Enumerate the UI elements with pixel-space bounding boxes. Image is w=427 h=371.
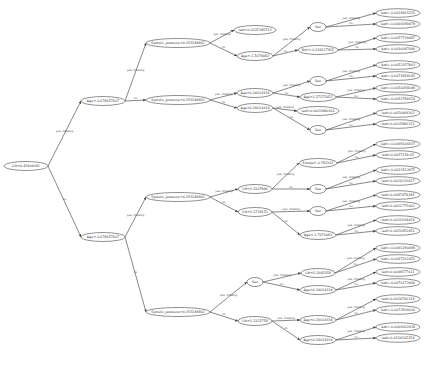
edge-label: yes, missing (220, 293, 238, 297)
node-label: Age<-0.678657667 (87, 235, 119, 239)
edge-label: yes, missing (215, 92, 233, 96)
tree-node: Age<-0.678657667 (81, 97, 125, 106)
tree-node: Sex (310, 207, 326, 216)
tree-node: Age<0.24614334 (300, 316, 336, 325)
tree-edge (272, 321, 300, 340)
edge-label: yes, missing (347, 305, 365, 309)
edge-label: no (285, 91, 289, 95)
leaf-label: leaf=0.0024741119 (381, 297, 414, 301)
edge-label: no (355, 45, 359, 49)
node-label: Sex (315, 187, 321, 191)
leaf-label: leaf=-0.0069289479 (381, 22, 415, 26)
tree-edge (125, 237, 146, 312)
leaf-label: leaf=-0.0009302438 (381, 325, 415, 329)
node-label: Age<-1.7676083 (304, 233, 332, 237)
edge-label: no (354, 282, 358, 286)
leaf-label: leaf=-0.0052788324 (381, 97, 415, 101)
node-label: Smoke<-0.781163 (303, 161, 334, 165)
leaf-node: leaf=-0.0091290499 (376, 244, 420, 253)
tree-node: Smoke<-0.781163 (299, 159, 337, 168)
edge-label: yes, missing (347, 88, 365, 92)
leaf-label: leaf=-0.0099106837 (381, 142, 415, 146)
leaf-node: leaf=0.0051951456 (376, 227, 420, 236)
tree-node: Age<-1.7676083 (300, 231, 336, 240)
edge-label: yes, missing (283, 83, 301, 87)
tree-node: Age<1.27175052 (300, 93, 336, 102)
tree-node: Lift<1.2122758 (238, 317, 272, 326)
tree-edge (272, 211, 310, 212)
edge-label: no (284, 49, 288, 53)
tree-node: Sex (310, 23, 326, 32)
edge-label: yes, missing (347, 277, 365, 281)
edge-label: no (222, 200, 226, 204)
tree-node: Systolic_pressure<0.353248862 (146, 193, 210, 202)
tree-node: Age<-1.5679082 (237, 52, 273, 61)
node-label: Age<0.24614334 (303, 288, 332, 292)
edge-label: no (349, 181, 353, 185)
node-label: leaf=0.0023480166 (301, 109, 334, 113)
tree-edge (338, 49, 376, 50)
tree-edge (210, 282, 247, 312)
tree-node: Systolic_pressure<0.353248862 (146, 308, 210, 317)
tree-edge (125, 100, 146, 101)
node-label: Age<-0.678657667 (87, 99, 119, 103)
edge-label: no (349, 123, 353, 127)
leaf-label: leaf=-0.0071958182 (381, 74, 415, 78)
edge-label: yes, missing (282, 207, 300, 211)
leaf-node: leaf=0.0022034424 (376, 216, 420, 225)
node-label: Lift<2.2082358 (305, 271, 331, 275)
leaf-label: leaf=0.0057159-05 (382, 153, 414, 157)
edge-label: no (290, 115, 294, 119)
edge-label: no (284, 326, 288, 330)
leaf-node: leaf=-0.0069289479 (376, 20, 420, 29)
edge-label: yes, missing (215, 189, 233, 193)
node-label: Bmi<-0.219217815 (302, 48, 334, 52)
tree-edge (272, 212, 300, 235)
leaf-node: leaf=0.0024741119 (376, 295, 420, 304)
tree-node: leaf=0.0325345513 (234, 26, 276, 35)
leaf-node: leaf=0.0015896221 (376, 120, 420, 129)
node-label: Systolic_pressure<0.353248862 (151, 310, 204, 314)
edge-label: no (284, 219, 288, 223)
tree-node: Age<0.24614334 (300, 286, 336, 295)
leaf-label: leaf=0.0051951456 (381, 229, 414, 233)
edge-label: no (354, 335, 358, 339)
tree-edge (326, 170, 376, 189)
tree-node: Systolic_pressure<0.353248862 (146, 39, 210, 48)
leaf-label: leaf=0.0021775060 (381, 204, 414, 208)
node-label: Age<1.27175052 (303, 95, 332, 99)
tree-edge (336, 272, 376, 290)
tree-node: Sex (247, 278, 263, 287)
edge-label: yes, missing (127, 213, 145, 217)
node-label: Sex (252, 280, 258, 284)
edge-label: yes, missing (277, 172, 295, 176)
node-label: Sex (315, 79, 321, 83)
edge-label: no (222, 100, 226, 104)
tree-edge (335, 248, 376, 273)
leaf-node: leaf=0.0087478385 (376, 191, 420, 200)
leaf-label: leaf=-0.0036087096 (381, 47, 415, 51)
edge-label: yes, missing (348, 149, 366, 153)
node-label: Sex (315, 25, 321, 29)
edge-label: no (354, 229, 358, 233)
edge-label: yes, missing (127, 68, 145, 72)
leaf-label: leaf=-0.0052357863 (381, 63, 415, 67)
edge-label: yes, missing (342, 69, 360, 73)
edge-label: no (222, 45, 226, 49)
edge-label: yes, missing (277, 316, 295, 320)
node-label: Age<0.24614334 (240, 91, 269, 95)
tree-node: Lift<1.2207896 (238, 185, 272, 194)
edge-label: no (134, 96, 138, 100)
leaf-node: leaf=0.0021775060 (376, 202, 420, 211)
edge-label: no (354, 94, 358, 98)
edge-label: yes, missing (347, 256, 365, 260)
leaf-node: leaf=-0.0073506606 (376, 306, 420, 315)
tree-edge (272, 320, 300, 321)
edge-label: yes, missing (342, 16, 360, 20)
leaf-label: leaf=0.0016131827 (381, 179, 414, 183)
edge-label: no (354, 262, 358, 266)
leaf-node: leaf=-0.0023513975 (376, 166, 420, 175)
leaf-label: leaf=0.0087478385 (381, 193, 414, 197)
node-label: Age<0.24614334 (240, 106, 269, 110)
tree-node: Age<-0.678657667 (81, 233, 125, 242)
